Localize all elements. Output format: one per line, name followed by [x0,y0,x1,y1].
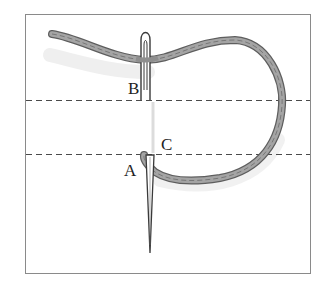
point-label-b: B [128,79,139,98]
point-label-c: C [161,135,172,154]
needle-eye [141,33,150,101]
point-label-a: A [124,161,137,180]
stitch-diagram: B C A [0,0,331,296]
thread-through-eye [136,58,158,60]
